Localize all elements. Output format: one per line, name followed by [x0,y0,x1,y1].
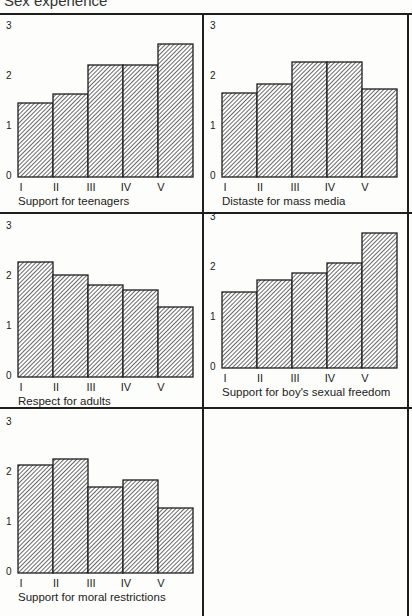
y-tick-label: 2 [210,261,216,272]
bar-III [292,273,327,368]
bar-IV [123,290,158,377]
panel-title: Respect for adults [18,395,111,407]
bar-plot [0,408,202,603]
panel-title: Support for boy's sexual freedom [222,386,390,398]
panel-title: Support for teenagers [18,195,129,207]
bar-IV [327,62,362,177]
y-tick-label: 3 [210,20,216,31]
x-tick-label: I [223,181,226,193]
bar-plot [0,213,202,408]
y-tick-label: 0 [6,566,12,577]
y-tick-label: 2 [6,466,12,477]
x-tick-label: IV [325,372,335,384]
x-tick-label: I [223,372,226,384]
bar-III [88,487,123,573]
panel-title: Distaste for mass media [222,195,345,207]
bar-III [292,62,327,177]
bar-III [88,285,123,377]
y-tick-label: 3 [6,220,12,231]
bar-plot [0,14,202,209]
y-tick-label: 1 [6,120,12,131]
x-tick-label: IV [325,181,335,193]
y-tick-label: 1 [6,320,12,331]
x-tick-label: V [361,372,368,384]
y-tick-label: 0 [6,370,12,381]
chart-panel-3: 0123IIIIIIIVVRespect for adults [0,213,202,408]
bar-V [158,44,193,177]
x-tick-label: V [157,381,164,393]
bar-IV [123,480,158,573]
x-tick-label: II [257,181,263,193]
y-tick-label: 0 [210,170,216,181]
bar-IV [327,263,362,368]
y-tick-label: 2 [6,270,12,281]
bar-II [257,280,292,368]
x-tick-label: IV [121,181,131,193]
y-tick-label: 0 [6,170,12,181]
bar-III [88,65,123,177]
x-tick-label: III [86,181,95,193]
bar-II [257,84,292,177]
bar-I [222,292,257,368]
bar-I [18,465,53,573]
chart-panel-1: 0123IIIIIIIVVSupport for teenagers [0,14,202,209]
x-tick-label: III [86,381,95,393]
bar-plot [204,14,406,209]
x-tick-label: V [361,181,368,193]
figure-header: Sex experience [4,0,107,9]
x-tick-label: III [290,372,299,384]
bar-V [362,233,397,368]
y-tick-label: 1 [6,516,12,527]
x-tick-label: IV [121,577,131,589]
x-tick-label: II [257,372,263,384]
x-tick-label: III [290,181,299,193]
bar-IV [123,65,158,177]
x-tick-label: II [53,381,59,393]
bar-plot [204,213,406,408]
y-tick-label: 2 [210,70,216,81]
chart-panel-4: 0123IIIIIIIVVSupport for boy's sexual fr… [204,213,406,408]
chart-panel-5: 0123IIIIIIIVVSupport for moral restricti… [0,408,202,603]
y-tick-label: 0 [210,361,216,372]
x-tick-label: II [53,577,59,589]
chart-panel-2: 0123IIIIIIIVVDistaste for mass media [204,14,406,209]
x-tick-label: IV [121,381,131,393]
bar-I [18,103,53,177]
bar-I [222,93,257,177]
bar-V [362,89,397,177]
bar-II [53,459,88,573]
y-tick-label: 3 [6,416,12,427]
y-tick-label: 3 [210,211,216,222]
bar-II [53,275,88,377]
bar-I [18,262,53,377]
y-tick-label: 3 [6,20,12,31]
x-tick-label: I [19,577,22,589]
bar-II [53,94,88,177]
divider-right [407,13,409,616]
x-tick-label: I [19,381,22,393]
x-tick-label: I [19,181,22,193]
bar-V [158,508,193,573]
x-tick-label: III [86,577,95,589]
x-tick-label: V [157,181,164,193]
bar-V [158,307,193,377]
x-tick-label: II [53,181,59,193]
panel-title: Support for moral restrictions [18,591,166,603]
y-tick-label: 1 [210,311,216,322]
y-tick-label: 2 [6,70,12,81]
y-tick-label: 1 [210,120,216,131]
x-tick-label: V [157,577,164,589]
